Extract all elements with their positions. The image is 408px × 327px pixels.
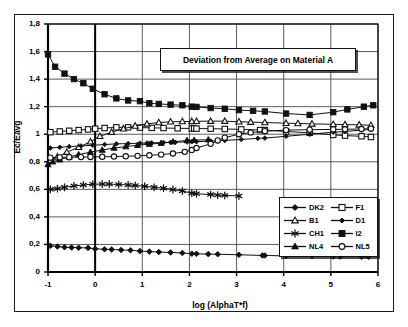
legend-item-nl4[interactable]: NL4	[282, 241, 329, 252]
legend-label: DK2	[309, 204, 324, 212]
legend-label: B1	[309, 217, 319, 225]
legend-grid: DK2F1B1D1CH1I2NL4NL5	[282, 201, 375, 253]
x-tick-label: 3	[227, 280, 247, 289]
x-tick-label: -1	[38, 280, 58, 289]
legend-item-i2[interactable]: I2	[329, 228, 376, 239]
legend-label: I2	[356, 230, 362, 238]
legend-marker-filled-square	[329, 228, 355, 239]
chart-figure: 00,20,40,60,811,21,41,61,8 -10123456 Ec/…	[0, 0, 408, 327]
chart-legend: DK2F1B1D1CH1I2NL4NL5	[279, 197, 378, 257]
legend-marker-filled-diamond	[282, 202, 308, 213]
y-tick-label: 0,6	[14, 184, 40, 193]
legend-item-d1[interactable]: D1	[329, 215, 376, 226]
legend-marker-small-filled-diamond	[329, 215, 355, 226]
y-tick-label: 1,8	[14, 19, 40, 28]
y-tick-label: 1,6	[14, 47, 40, 56]
legend-marker-open-circle	[329, 241, 355, 252]
x-tick-label: 6	[368, 280, 388, 289]
series-f1	[48, 125, 374, 140]
legend-item-b1[interactable]: B1	[282, 215, 329, 226]
legend-marker-filled-triangle	[282, 241, 308, 252]
x-tick-label: 2	[179, 280, 199, 289]
y-tick-label: 0	[14, 267, 40, 276]
series-ch1	[47, 181, 241, 200]
legend-item-dk2[interactable]: DK2	[282, 202, 329, 213]
x-tick-label: 5	[321, 280, 341, 289]
x-tick-label: 0	[85, 280, 105, 289]
legend-label: NL4	[309, 243, 323, 251]
y-tick-label: 1,4	[14, 74, 40, 83]
x-tick-label: 1	[132, 280, 152, 289]
legend-label: D1	[356, 217, 366, 225]
legend-label: F1	[356, 204, 365, 212]
chart-title-box: Deviation from Average on Material A	[160, 48, 356, 71]
legend-label: CH1	[309, 230, 324, 238]
legend-label: NL5	[356, 243, 370, 251]
legend-marker-asterisk	[282, 228, 308, 239]
y-axis-title: Ec/Eavg	[12, 107, 22, 167]
y-tick-label: 0,2	[14, 239, 40, 248]
y-tick-label: 0,4	[14, 212, 40, 221]
legend-marker-open-triangle	[282, 215, 308, 226]
legend-item-f1[interactable]: F1	[329, 202, 376, 213]
x-axis-title: log (AlphaT*f)	[140, 300, 300, 310]
chart-title-text: Deviation from Average on Material A	[183, 55, 333, 65]
legend-marker-open-square	[329, 202, 355, 213]
legend-item-nl5[interactable]: NL5	[329, 241, 376, 252]
x-tick-label: 4	[274, 280, 294, 289]
legend-item-ch1[interactable]: CH1	[282, 228, 329, 239]
